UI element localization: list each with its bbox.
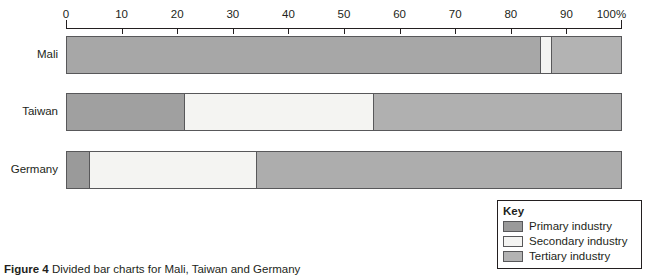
axis-tick-label: 50 [338,8,351,20]
axis-tick-label: 60 [393,8,406,20]
axis-tick-label: 40 [282,8,295,20]
legend-swatch-icon [503,221,523,232]
bar-segment [67,37,540,73]
axis-tick [455,28,456,34]
legend-item: Tertiary industry [503,249,636,264]
legend-title: Key [503,204,636,218]
legend-swatch-icon [503,251,523,262]
bar-segment [551,37,622,73]
bar-segment [67,152,89,188]
figure-number: Figure 4 [4,263,49,275]
bar-segment [540,37,551,73]
legend-item-label: Tertiary industry [529,250,610,263]
figure-caption: Figure 4 Divided bar charts for Mali, Ta… [4,262,300,276]
axis-tick [288,28,289,34]
bar-category-label: Germany [0,162,58,176]
bar-track [66,151,622,189]
figure-divided-bar-charts: 0102030405060708090100% MaliTaiwanGerman… [0,0,649,280]
figure-caption-text: Divided bar charts for Mali, Taiwan and … [52,263,300,275]
axis-tick-label: 0 [63,8,69,20]
axis-tick [177,28,178,34]
bar-row: Germany [0,151,649,189]
legend-item: Secondary industry [503,234,636,249]
legend-key: Key Primary industrySecondary industryTe… [497,200,642,269]
axis-tick-label: 30 [226,8,239,20]
axis-tick-label: 100% [597,8,626,20]
bar-category-label: Mali [0,47,58,61]
bar-segment [67,94,184,130]
axis-tick [621,20,622,29]
axis-tick-label: 90 [560,8,573,20]
bar-row: Taiwan [0,93,649,131]
bar-category-label: Taiwan [0,104,58,118]
bar-segment [184,94,373,130]
bar-track [66,93,622,131]
bar-row: Mali [0,36,649,74]
axis-tick [233,28,234,34]
axis-tick [344,28,345,34]
axis-tick [566,28,567,34]
legend-item: Primary industry [503,219,636,234]
bar-segment [373,94,622,130]
legend-items: Primary industrySecondary industryTertia… [503,219,636,264]
axis-tick [66,20,67,29]
axis-tick [122,28,123,34]
legend-item-label: Primary industry [529,220,612,233]
bar-segment [89,152,256,188]
bar-segment [256,152,622,188]
axis-tick-label: 80 [504,8,517,20]
axis-tick-label: 10 [115,8,128,20]
axis-tick [511,28,512,34]
axis-tick [400,28,401,34]
bar-track [66,36,622,74]
axis-tick-label: 20 [171,8,184,20]
percentage-axis: 0102030405060708090100% [66,28,622,29]
legend-swatch-icon [503,236,523,247]
axis-tick-label: 70 [449,8,462,20]
legend-item-label: Secondary industry [529,235,627,248]
